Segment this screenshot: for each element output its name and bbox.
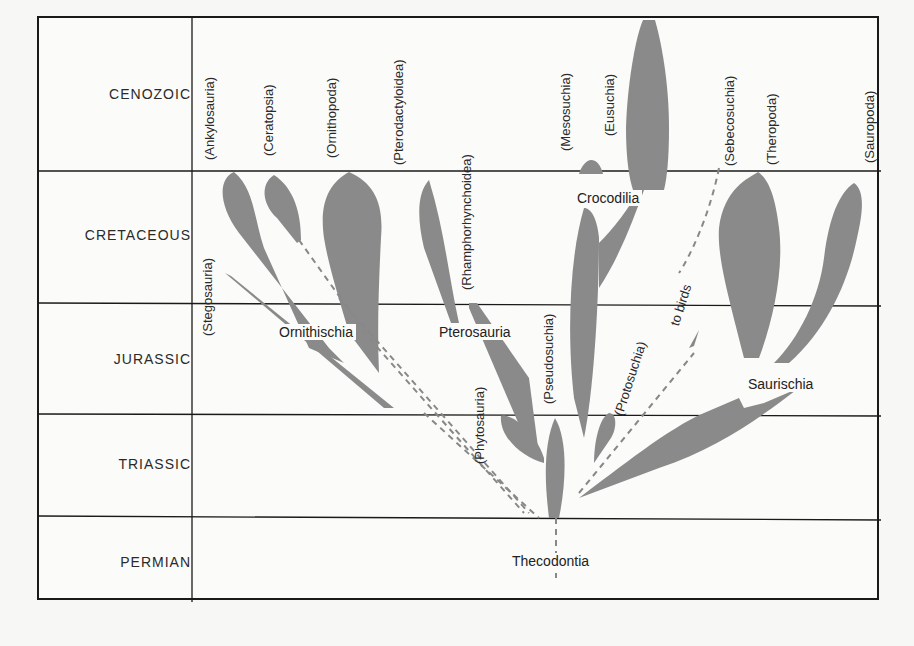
label-crocodilia: Crocodilia [574,190,642,206]
label-thecodontia: Thecodontia [509,553,592,569]
label-theropoda: (Theropoda) [764,93,779,165]
protosuchia-branch [594,413,615,463]
mesosuchia-branch [579,160,603,174]
diagram-frame: CENOZOIC CRETACEOUS JURASSIC TRIASSIC PE… [37,16,879,600]
arrow-to-birds-icon [689,330,699,348]
crocodilia-branch [570,208,599,438]
label-phytosauria: (Phytosauria) [472,387,487,464]
era-cenozoic: CENOZOIC [39,86,191,102]
saurischia-branch [579,388,799,498]
sauropoda-branch [774,183,862,363]
eusuchia-branch [626,20,669,190]
label-pseudosuchia: (Pseudosuchia) [541,314,556,404]
era-triassic: TRIASSIC [39,456,191,472]
label-pterodactyloidea: (Pterodactyloidea) [391,60,406,166]
label-mesosuchia: (Mesosuchia) [558,73,573,151]
label-rhamphorhynchoidea: (Rhamphorhynchoidea) [459,154,474,290]
pseudosuchia-branch [546,418,565,518]
label-eusuchia: (Eusuchia) [602,74,617,136]
pterodactyloidea-branch [419,180,459,323]
era-permian: PERMIAN [39,554,191,570]
phylogeny-svg [39,18,881,602]
label-ceratopsia: (Ceratopsia) [261,84,276,156]
label-sebecosuchia: (Sebecosuchia) [722,76,737,166]
label-stegosauria: (Stegosauria) [200,258,215,336]
theropoda-branch [719,172,781,358]
era-jurassic: JURASSIC [39,351,191,367]
era-cretaceous: CRETACEOUS [39,227,191,243]
label-ornithischia: Ornithischia [276,324,356,340]
ceratopsia-branch [265,175,301,243]
label-ankylosauria: (Ankylosauria) [202,77,217,160]
label-saurischia: Saurischia [745,376,816,392]
label-sauropoda: (Sauropoda) [862,91,877,163]
label-ornithopoda: (Ornithopoda) [324,78,339,158]
label-pterosauria: Pterosauria [436,324,514,340]
